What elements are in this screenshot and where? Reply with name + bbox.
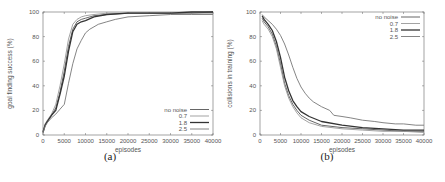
legend-label: 1.8: [390, 27, 399, 33]
x-tick-label: 10000: [77, 138, 94, 144]
x-tick-label: 40000: [416, 138, 433, 144]
y-tick-label: 40: [32, 83, 39, 89]
legend-label: 2.5: [179, 126, 188, 132]
legend-label: 1.8: [179, 120, 188, 126]
x-tick-label: 30000: [375, 138, 392, 144]
y-tick-label: 20: [32, 107, 39, 113]
y-tick-label: 40: [249, 83, 256, 89]
legend-label: 0.7: [390, 21, 399, 27]
x-tick-label: 40000: [205, 138, 222, 144]
x-tick-label: 20000: [120, 138, 137, 144]
x-tick-label: 0: [41, 138, 45, 144]
y-tick-label: 60: [249, 58, 256, 64]
series-line-0-7: [43, 13, 213, 131]
x-tick-label: 10000: [293, 138, 310, 144]
series-line-no-noise: [262, 18, 424, 131]
legend: no noise0.71.82.5: [164, 107, 209, 133]
y-tick-label: 80: [32, 34, 39, 40]
series-line-0-7: [262, 21, 424, 133]
plot-frame: [43, 12, 213, 135]
y-tick-label: 0: [253, 132, 257, 138]
x-tick-label: 25000: [354, 138, 371, 144]
x-tick-label: 15000: [313, 138, 330, 144]
figure: 0500010000150002000025000300003500040000…: [0, 0, 445, 182]
y-tick-label: 20: [249, 107, 256, 113]
legend-label: 2.5: [390, 34, 399, 40]
legend-label: no noise: [375, 14, 398, 20]
chart-a: 0500010000150002000025000300003500040000…: [6, 9, 222, 163]
legend-label: 0.7: [179, 113, 188, 119]
figure-caption: (a): [104, 150, 117, 163]
x-tick-label: 5000: [58, 138, 72, 144]
x-tick-label: 35000: [395, 138, 412, 144]
x-tick-label: 30000: [162, 138, 179, 144]
figure-caption: (b): [321, 150, 334, 163]
x-tick-label: 5000: [274, 138, 288, 144]
x-tick-label: 35000: [183, 138, 200, 144]
x-tick-label: 20000: [334, 138, 351, 144]
y-tick-label: 60: [32, 58, 39, 64]
y-tick-label: 0: [36, 132, 40, 138]
chart-b: 0500010000150002000025000300003500040000…: [226, 9, 433, 163]
y-tick-label: 80: [249, 34, 256, 40]
x-axis-label: episodes: [115, 146, 142, 154]
series-line-no-noise: [43, 12, 213, 131]
legend: no noise0.71.82.5: [375, 14, 420, 40]
legend-label: no noise: [164, 107, 187, 113]
series-line-1-8: [43, 12, 213, 133]
x-tick-label: 25000: [141, 138, 158, 144]
x-tick-label: 0: [258, 138, 262, 144]
y-axis-label: collisions in training (%): [226, 39, 234, 107]
y-axis-label: goal finding success (%): [6, 38, 14, 108]
series-line-2-5: [43, 15, 213, 133]
x-tick-label: 15000: [98, 138, 115, 144]
series-line-2-5: [262, 15, 424, 126]
series-line-1-8: [262, 16, 424, 130]
y-tick-label: 100: [29, 9, 40, 15]
y-tick-label: 100: [246, 9, 257, 15]
